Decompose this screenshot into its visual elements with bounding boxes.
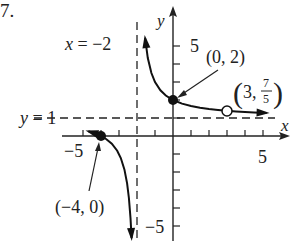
graph: 7. x = −2 y = 1 y x 5 −5 5 −5 (0, 2) (−4… xyxy=(0,0,294,241)
point-neg4-0 xyxy=(96,131,106,141)
x-tick-label-5: 5 xyxy=(258,147,267,167)
frac-denominator: 5 xyxy=(263,92,269,106)
vertical-asymptote-label: x = −2 xyxy=(64,34,111,54)
curve-arrow-icon xyxy=(256,109,269,117)
problem-number: 7. xyxy=(0,0,14,21)
horizontal-asymptote-label: y = 1 xyxy=(18,108,56,128)
curve-arrow-icon xyxy=(142,35,150,48)
paren-open: ( xyxy=(233,76,243,110)
frac-numerator: 7 xyxy=(263,76,269,90)
curve-arrow-icon xyxy=(127,228,135,241)
paren-close: ) xyxy=(273,76,283,110)
y-axis-label: y xyxy=(155,11,165,30)
y-tick-label-neg5: −5 xyxy=(145,217,164,237)
point-label-0-2: (0, 2) xyxy=(206,47,245,68)
y-tick-label-5: 5 xyxy=(190,36,199,56)
hole-point-3-7-5 xyxy=(222,106,232,116)
label-pointer xyxy=(89,142,101,191)
x-tick-label-neg5: −5 xyxy=(64,141,83,161)
point-label-3-7-5: ( 3, 7 5 ) xyxy=(233,76,283,110)
y-axis xyxy=(169,6,180,241)
label-pointer xyxy=(177,70,218,98)
curve-left-branch xyxy=(88,131,131,238)
label-3: 3, xyxy=(243,82,257,102)
x-axis-label: x xyxy=(280,116,289,135)
point-label-neg4-0: (−4, 0) xyxy=(55,197,104,218)
point-0-2 xyxy=(168,95,178,105)
